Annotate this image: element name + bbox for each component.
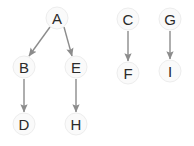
node-c[interactable]: C bbox=[117, 8, 139, 30]
node-label-e: E bbox=[71, 59, 81, 76]
node-label-a: A bbox=[52, 10, 62, 27]
node-label-g: G bbox=[164, 11, 176, 28]
node-label-h: H bbox=[71, 116, 82, 133]
node-label-f: F bbox=[123, 65, 132, 82]
node-i[interactable]: I bbox=[159, 60, 181, 82]
node-g[interactable]: G bbox=[159, 8, 181, 30]
nodes-layer: ABEDHCFGI bbox=[13, 7, 181, 135]
node-label-c: C bbox=[123, 11, 134, 28]
node-label-b: B bbox=[19, 59, 29, 76]
edge-a-to-b bbox=[29, 27, 50, 56]
edges-layer bbox=[24, 27, 170, 112]
node-b[interactable]: B bbox=[13, 56, 35, 78]
edge-a-to-e bbox=[64, 27, 72, 56]
node-h[interactable]: H bbox=[65, 113, 87, 135]
node-d[interactable]: D bbox=[13, 113, 35, 135]
graph-svg: ABEDHCFGI bbox=[0, 0, 194, 146]
node-e[interactable]: E bbox=[65, 56, 87, 78]
node-label-i: I bbox=[168, 63, 172, 80]
node-a[interactable]: A bbox=[46, 7, 68, 29]
node-f[interactable]: F bbox=[117, 62, 139, 84]
graph-diagram: ABEDHCFGI bbox=[0, 0, 194, 146]
node-label-d: D bbox=[19, 116, 30, 133]
